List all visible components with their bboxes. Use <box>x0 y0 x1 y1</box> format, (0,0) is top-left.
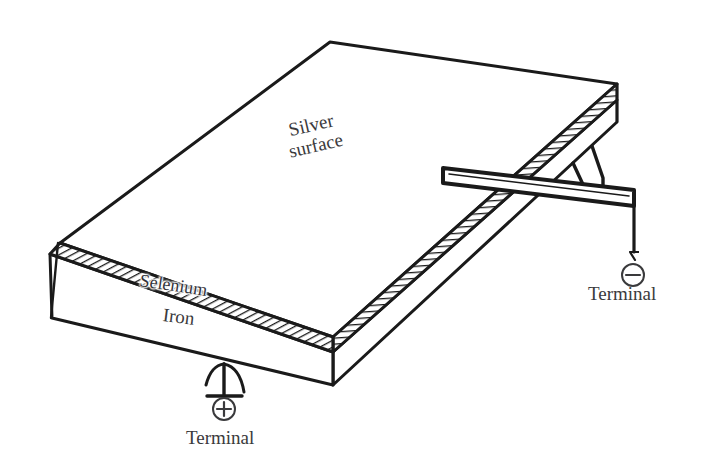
rectifier-diagram-svg <box>0 0 715 472</box>
label-terminal-negative: Terminal <box>588 283 656 304</box>
label-iron: Iron <box>162 304 196 329</box>
figure-canvas: Silver surface Selenium Iron Terminal Te… <box>0 0 715 472</box>
positive-contact-arc-left <box>206 364 224 385</box>
positive-contact-arc-right <box>224 364 244 392</box>
label-terminal-positive: Terminal <box>186 427 254 448</box>
